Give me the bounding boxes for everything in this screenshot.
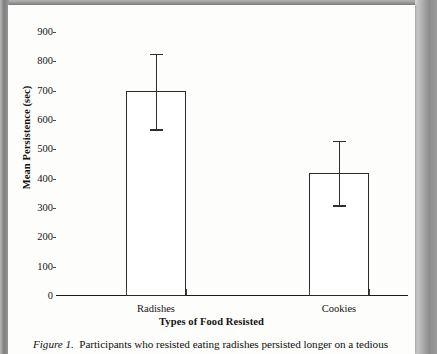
x-tick-mark	[186, 289, 187, 295]
bar-chart-figure: Mean Persistence (sec) 01002003004005006…	[8, 5, 415, 327]
figure-caption-text: Participants who resisted eating radishe…	[79, 338, 388, 350]
error-bar-cap-upper-radishes	[150, 54, 163, 55]
plot-area: RadishesCookies	[56, 5, 408, 296]
x-tick-mark	[369, 289, 370, 295]
scanned-page: Mean Persistence (sec) 01002003004005006…	[0, 0, 437, 354]
y-axis-tick-labels: 0100200300400500600700800900	[13, 5, 53, 305]
error-bar-cap-upper-cookies	[333, 141, 346, 142]
error-bar-stem-cookies	[339, 141, 340, 206]
page-edge-right	[415, 0, 437, 354]
paper-sheet: Mean Persistence (sec) 01002003004005006…	[8, 5, 415, 354]
error-bar-cap-lower-radishes	[150, 129, 163, 130]
y-tick-label: 300	[19, 203, 53, 214]
y-tick-label: 200	[19, 232, 53, 243]
y-tick-label: 800	[19, 56, 53, 67]
y-tick-label: 100	[19, 261, 53, 272]
y-tick-label: 0	[19, 291, 53, 302]
x-tick-mark	[126, 289, 127, 295]
error-bar-cap-lower-cookies	[333, 205, 346, 206]
x-category-label-cookies: Cookies	[322, 303, 356, 314]
y-tick-label: 900	[19, 27, 53, 38]
y-tick-label: 400	[19, 173, 53, 184]
figure-caption: Figure 1. Participants who resisted eati…	[33, 338, 413, 350]
y-tick-label: 600	[19, 115, 53, 126]
x-category-label-radishes: Radishes	[137, 303, 175, 314]
y-tick-label: 700	[19, 85, 53, 96]
x-tick-mark	[309, 289, 310, 295]
x-axis-title: Types of Food Resisted	[8, 316, 415, 327]
error-bar-stem-radishes	[156, 54, 157, 130]
y-tick-label: 500	[19, 144, 53, 155]
figure-label: Figure 1.	[33, 338, 74, 350]
